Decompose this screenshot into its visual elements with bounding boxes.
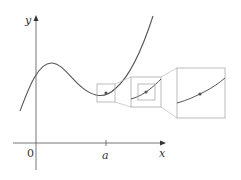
connector-1-top	[115, 77, 131, 84]
y-axis-label: y	[24, 14, 32, 27]
x-axis-label: x	[159, 147, 166, 160]
connector-2-top	[161, 68, 177, 77]
connector-2-bottom	[161, 107, 177, 118]
y-axis-arrow-icon	[34, 15, 39, 21]
origin-label: 0	[27, 147, 34, 160]
a-label: a	[102, 149, 109, 162]
zoom-diagram: y 0 a x	[0, 0, 241, 180]
x-axis-arrow-icon	[160, 141, 166, 146]
point-a-on-curve	[104, 91, 107, 94]
point-a-zoom-2	[145, 91, 148, 94]
connector-1-bottom	[115, 102, 131, 107]
point-a-zoom-3	[198, 92, 201, 95]
